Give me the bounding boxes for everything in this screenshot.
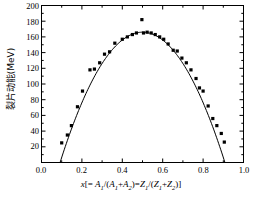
y-axis-label: 裂片动能(MeV) — [6, 24, 16, 134]
x-axis-label: x[= A1/(A1+A2)=Z1/(Z1+Z2)] — [0, 179, 262, 193]
y-tick-label: 20 — [17, 142, 39, 151]
x-tick-label: 0.8 — [190, 166, 216, 175]
x-tick-label: 1.0 — [231, 166, 257, 175]
chart-figure: 200 180 160 140 120 100 80 60 40 20 0.0 … — [0, 0, 262, 204]
y-tick-label: 100 — [17, 80, 39, 89]
x-label-open: [= — [85, 179, 95, 189]
x-tick-label: 0.2 — [69, 166, 95, 175]
y-tick-label: 200 — [17, 2, 39, 11]
x-tick-label: 0.4 — [109, 166, 135, 175]
x-axis-tick-labels: 0.0 0.2 0.4 0.6 0.8 1.0 — [0, 166, 262, 178]
y-tick-label: 60 — [17, 111, 39, 120]
x-tick-label: 0.6 — [150, 166, 176, 175]
y-tick-label: 180 — [17, 18, 39, 27]
x-label-close: )] — [175, 179, 181, 189]
y-tick-label: 160 — [17, 33, 39, 42]
y-tick-label: 80 — [17, 96, 39, 105]
plot-frame — [41, 5, 244, 163]
x-tick-label: 0.0 — [28, 166, 54, 175]
y-tick-label: 140 — [17, 49, 39, 58]
x-label-closeparen: )= — [132, 179, 140, 189]
y-tick-label: 120 — [17, 64, 39, 73]
y-tick-label: 40 — [17, 127, 39, 136]
